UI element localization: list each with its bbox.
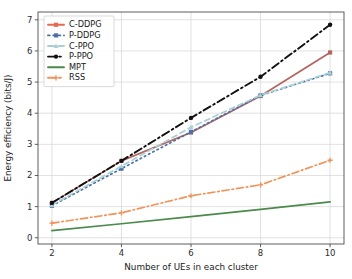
chart-figure: 24681001234567 Number of UEs in each clu…: [0, 0, 352, 279]
legend-label: C-PPO: [69, 41, 94, 51]
chart-legend[interactable]: C-DDPGP-DDPGC-PPOP-PPOMPTRSS: [44, 16, 114, 87]
data-point-marker: [328, 50, 332, 54]
data-point-marker: [258, 75, 262, 79]
ytick-label: 3: [27, 139, 32, 149]
data-point-marker: [50, 201, 54, 205]
xtick-label: 4: [119, 248, 124, 258]
x-axis-title: Number of UEs in each cluster: [124, 262, 258, 272]
data-point-marker: [189, 116, 193, 120]
xtick-label: 6: [188, 248, 193, 258]
legend-label: P-PPO: [69, 51, 93, 61]
ytick-label: 5: [27, 77, 32, 87]
legend-label: RSS: [69, 72, 85, 82]
data-point-marker: [54, 54, 58, 58]
data-point-marker: [119, 159, 123, 163]
ytick-label: 6: [27, 46, 32, 56]
ytick-label: 0: [27, 233, 32, 243]
legend-label: MPT: [69, 62, 87, 72]
xtick-label: 8: [258, 248, 263, 258]
xtick-label: 2: [49, 248, 54, 258]
ytick-label: 4: [27, 108, 32, 118]
data-point-marker: [54, 23, 58, 27]
data-point-marker: [189, 130, 193, 134]
legend-label: C-DDPG: [69, 19, 102, 29]
legend-label: P-DDPG: [69, 30, 101, 40]
y-axis-title: Energy efficiency (bits/J): [3, 74, 13, 181]
ytick-label: 7: [27, 15, 32, 25]
xtick-label: 10: [325, 248, 336, 258]
ytick-label: 1: [27, 202, 32, 212]
data-point-marker: [328, 23, 332, 27]
ytick-label: 2: [27, 170, 32, 180]
line-chart: 24681001234567 Number of UEs in each clu…: [0, 0, 352, 279]
data-point-marker: [54, 33, 58, 37]
